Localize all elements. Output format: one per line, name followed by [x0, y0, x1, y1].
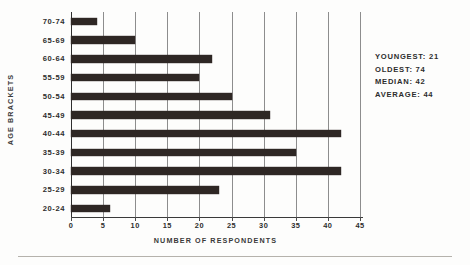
stat-oldest: OLDEST: 74	[375, 65, 439, 74]
y-tick-label: 25-29	[43, 185, 65, 194]
bar	[71, 93, 232, 101]
y-tick-label: 35-39	[43, 148, 65, 157]
x-tick-label: 20	[195, 221, 204, 230]
x-tick-label: 10	[131, 221, 140, 230]
bar	[71, 74, 199, 82]
y-axis-title: AGE BRACKETS	[0, 0, 22, 218]
x-tick-label: 45	[355, 221, 364, 230]
x-axis-baseline	[71, 217, 363, 218]
y-tick-label: 40-44	[43, 129, 65, 138]
x-tick-label: 0	[69, 221, 74, 230]
y-tick-label: 20-24	[43, 204, 65, 213]
gridline-45	[360, 12, 361, 218]
y-tick-label: 55-59	[43, 73, 65, 82]
bar	[71, 130, 341, 138]
stat-youngest: YOUNGEST: 21	[375, 52, 439, 61]
y-tick-label: 45-49	[43, 111, 65, 120]
bar	[71, 55, 212, 63]
bar	[71, 149, 296, 157]
y-tick-label: 70-74	[43, 17, 65, 26]
y-tick-label: 65-69	[43, 36, 65, 45]
bar	[71, 36, 135, 44]
y-tick-label: 60-64	[43, 54, 65, 63]
footer-divider	[18, 256, 452, 257]
y-tick-label: 30-34	[43, 167, 65, 176]
chart-page: AGE BRACKETS 70-7465-6960-6455-5950-5445…	[0, 0, 470, 265]
bar	[71, 186, 219, 194]
x-tick-label: 35	[291, 221, 300, 230]
bar	[71, 111, 270, 119]
x-tick-label: 40	[323, 221, 332, 230]
plot-area: 70-7465-6960-6455-5950-5445-4940-4435-39…	[71, 12, 360, 218]
bar	[71, 205, 110, 213]
x-axis-title: NUMBER OF RESPONDENTS	[71, 236, 360, 245]
y-tick-label: 50-54	[43, 92, 65, 101]
stat-median: MEDIAN: 42	[375, 77, 439, 86]
bar	[71, 167, 341, 175]
stat-average: AVERAGE: 44	[375, 90, 439, 99]
x-tick-label: 25	[227, 221, 236, 230]
x-tick-label: 30	[259, 221, 268, 230]
bar	[71, 18, 97, 26]
y-axis-title-label: AGE BRACKETS	[7, 73, 16, 144]
summary-stats: YOUNGEST: 21 OLDEST: 74 MEDIAN: 42 AVERA…	[375, 52, 439, 99]
x-tick-label: 5	[101, 221, 106, 230]
x-tick-label: 15	[163, 221, 172, 230]
